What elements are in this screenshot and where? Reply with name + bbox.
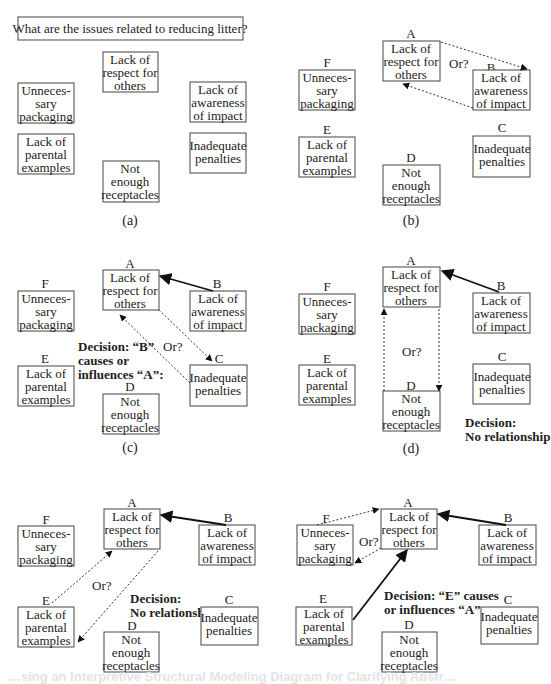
svg-text:E: E (323, 351, 331, 366)
svg-text:examples: examples (302, 163, 351, 178)
svg-text:A: A (406, 253, 416, 268)
node-D: D Not enough receptacles (382, 150, 440, 206)
svg-text:others: others (114, 296, 146, 311)
svg-text:Decision: “E” causes: Decision: “E” causes (384, 588, 499, 603)
svg-text:of impact: of impact (482, 551, 532, 566)
svg-text:E: E (41, 351, 49, 366)
node-F: F Unneces- sary packaging (299, 55, 355, 111)
svg-text:F: F (323, 279, 330, 294)
panel-c: A Lack of respect for others F Unneces- … (18, 256, 247, 456)
dotted-arrow-A-to-F (355, 548, 381, 563)
svg-text:penalties: penalties (479, 154, 525, 169)
node-E: E Lack of parental examples (299, 122, 355, 178)
svg-text:A: A (127, 495, 137, 510)
svg-text:packaging: packaging (300, 96, 354, 111)
node-A: A Lack of respect for others (383, 253, 440, 308)
panel-caption: (d) (403, 441, 420, 457)
panel-e: A Lack of respect for others F Unneces- … (18, 495, 258, 673)
svg-text:others: others (395, 293, 427, 308)
svg-text:others: others (395, 67, 427, 82)
svg-text:packaging: packaging (19, 552, 73, 567)
solid-arrow-B-to-A (438, 514, 506, 525)
svg-text:penalties: penalties (195, 151, 241, 166)
svg-text:examples: examples (21, 160, 70, 175)
svg-text:penalties: penalties (206, 623, 252, 638)
node-C: C Inadequate penalties (189, 351, 247, 406)
node-B: B Lack of awareness of impact (190, 276, 246, 332)
svg-text:C: C (225, 592, 234, 607)
node-B: Lack of awareness of impact (190, 82, 246, 123)
node-D: D Not enough receptacles (102, 618, 160, 673)
svg-text:Decision:: Decision: (465, 415, 516, 430)
svg-text:packaging: packaging (19, 317, 73, 332)
node-F: F Unneces- sary packaging (18, 276, 74, 332)
node-C: C Inadequate penalties (473, 120, 531, 177)
node-D: D Not enough receptacles (382, 378, 440, 432)
svg-text:C: C (504, 592, 513, 607)
svg-text:Decision: “B”: Decision: “B” (78, 339, 154, 354)
svg-text:C: C (498, 120, 507, 135)
footer-caption: …sing an Interpretive Structural Modelin… (8, 669, 457, 684)
svg-text:E: E (323, 122, 331, 137)
svg-text:A: A (406, 26, 416, 41)
node-A: Lack of respect for others (102, 52, 158, 93)
svg-text:F: F (42, 512, 49, 527)
decision-text: Decision: “B” causes or influences “A”: (78, 339, 164, 382)
svg-text:D: D (125, 379, 134, 394)
node-F: Unneces- sary packaging (18, 83, 74, 124)
svg-text:No relationship: No relationship (465, 429, 550, 444)
svg-text:others: others (393, 535, 425, 550)
node-F: F Unneces- sary packaging (297, 511, 353, 566)
svg-text:causes or: causes or (78, 353, 129, 368)
node-A: A Lack of respect for others (104, 495, 160, 550)
node-A: A Lack of respect for others (381, 495, 437, 550)
node-C: C Inadequate penalties (200, 592, 258, 645)
svg-text:A: A (125, 256, 135, 271)
svg-text:others: others (114, 78, 146, 93)
solid-arrow-B-to-A (442, 271, 499, 292)
or-label: Or? (449, 56, 469, 71)
svg-text:A: A (403, 495, 413, 510)
decision-text: Decision: No relationship (465, 415, 550, 444)
svg-text:influences “A”:: influences “A”: (78, 367, 164, 382)
panel-a: What are the issues related to reducing … (13, 17, 248, 229)
solid-arrow-B-to-A (161, 515, 226, 525)
svg-text:packaging: packaging (300, 320, 354, 335)
svg-text:others: others (116, 535, 148, 550)
svg-text:of impact: of impact (193, 108, 243, 123)
svg-text:D: D (404, 617, 413, 632)
node-F: F Unneces- sary packaging (18, 512, 74, 567)
svg-text:examples: examples (21, 392, 70, 407)
panel-caption: (b) (403, 213, 420, 229)
svg-text:D: D (127, 618, 136, 633)
node-A: A Lack of respect for others (102, 256, 159, 311)
svg-text:examples: examples (21, 633, 70, 648)
svg-text:C: C (498, 349, 507, 364)
svg-text:B: B (224, 510, 233, 525)
node-E: E Lack of parental examples (18, 593, 74, 648)
panel-d: A Lack of respect for others F Unneces- … (299, 253, 550, 457)
svg-text:C: C (215, 351, 224, 366)
node-C: Inadequate penalties (189, 133, 246, 173)
dotted-arrow-B-to-A (403, 84, 473, 108)
svg-text:examples: examples (302, 391, 351, 406)
svg-text:E: E (42, 593, 50, 608)
node-F: F Unneces- sary packaging (299, 279, 355, 335)
or-label: Or? (359, 534, 379, 549)
node-D: D Not enough receptacles (101, 379, 159, 435)
panel-f: A Lack of respect for others F Unneces- … (296, 495, 538, 673)
svg-text:receptacles: receptacles (382, 191, 440, 206)
node-D: Not enough receptacles (101, 161, 159, 202)
svg-text:packaging: packaging (19, 109, 73, 124)
panel-b: A Lack of respect for others F Unneces- … (299, 26, 531, 229)
panel-caption: (a) (122, 213, 138, 229)
node-A: A Lack of respect for others (383, 26, 440, 82)
node-D: D Not enough receptacles (380, 617, 438, 673)
node-B: B Lack of awareness of impact (479, 510, 536, 566)
svg-text:or influences “A”: or influences “A” (384, 602, 481, 617)
question-text: What are the issues related to reducing … (13, 21, 248, 36)
litter-issues-diagram: What are the issues related to reducing … (0, 0, 551, 684)
svg-text:receptacles: receptacles (101, 420, 159, 435)
svg-text:D: D (406, 150, 415, 165)
or-label: Or? (402, 344, 422, 359)
